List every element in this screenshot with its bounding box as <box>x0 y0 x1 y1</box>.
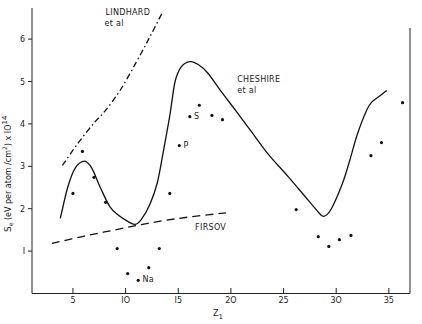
data-point <box>168 192 171 195</box>
annotation-label: FIRSOV <box>195 223 226 232</box>
data-point <box>198 104 201 107</box>
annotation-label: LINDHARD <box>106 8 151 17</box>
x-tick-label: 5 <box>70 296 75 305</box>
x-tick-label: 25 <box>278 296 288 305</box>
stopping-power-chart: 5IOI52O253O35 I23456 LINDHARDet alCHESHI… <box>0 0 422 324</box>
cheshire-et-al-curve <box>60 62 386 225</box>
data-point <box>137 279 140 282</box>
annotation-label: et al <box>237 86 256 95</box>
data-point <box>178 144 181 147</box>
data-point <box>81 150 84 153</box>
annotation-label: et al <box>105 19 124 28</box>
x-tick-label: I5 <box>175 296 182 305</box>
axes <box>32 8 410 294</box>
annotations: LINDHARDet alCHESHIREet alFIRSOVNaPS <box>105 8 281 285</box>
y-tick-label: 5 <box>20 78 25 87</box>
data-point <box>126 272 129 275</box>
x-tick-label: 3O <box>331 296 342 305</box>
data-point <box>188 115 191 118</box>
data-point <box>147 266 150 269</box>
lindhard-et-al-curve <box>62 12 162 165</box>
data-point <box>221 118 224 121</box>
data-point <box>327 245 330 248</box>
annotation-label: CHESHIRE <box>237 75 280 84</box>
data-point <box>116 247 119 250</box>
data-point <box>71 192 74 195</box>
x-tick-label: 2O <box>225 296 236 305</box>
data-point <box>369 154 372 157</box>
y-axis-label: Se (eV per atom /cm2) x IO14 <box>1 115 14 232</box>
x-tick-label: 35 <box>384 296 394 305</box>
data-point <box>104 201 107 204</box>
data-point <box>295 208 298 211</box>
annotation-label: Na <box>142 275 154 284</box>
x-tick-label: IO <box>121 296 130 305</box>
data-point <box>317 235 320 238</box>
y-tick-label: 3 <box>20 162 25 171</box>
y-tick-label: 2 <box>20 205 25 214</box>
data-point <box>380 141 383 144</box>
y-ticks: I23456 <box>20 35 32 256</box>
data-point <box>158 247 161 250</box>
data-point <box>210 114 213 117</box>
data-point <box>349 234 352 237</box>
series-layer <box>52 12 404 282</box>
x-ticks: 5IOI52O253O35 <box>70 288 394 305</box>
annotation-label: P <box>184 141 189 150</box>
data-point <box>401 101 404 104</box>
y-tick-label: 4 <box>20 120 25 129</box>
x-axis-label: Z1 <box>213 309 223 321</box>
annotation-label: S <box>194 112 199 121</box>
y-tick-label: I <box>23 247 25 256</box>
data-point <box>338 238 341 241</box>
data-point <box>92 176 95 179</box>
y-tick-label: 6 <box>20 35 25 44</box>
